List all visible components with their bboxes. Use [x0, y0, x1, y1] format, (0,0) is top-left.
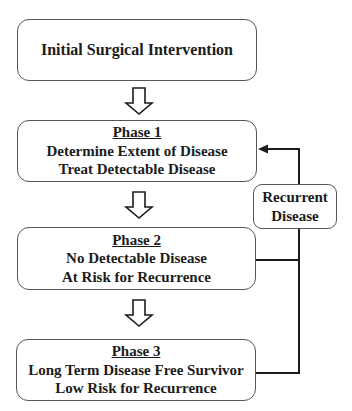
phase-2-title: Phase 2 [112, 231, 161, 250]
phase-2-box: Phase 2 No Detectable Disease At Risk fo… [17, 227, 256, 290]
phase-1-line-2: Treat Detectable Disease [59, 160, 216, 179]
recurrent-label-line-1: Recurrent [262, 188, 328, 207]
phase-3-title: Phase 3 [112, 342, 161, 361]
phase-3-box: Phase 3 Long Term Disease Free Survivor … [16, 339, 256, 401]
feedback-line-phase3 [256, 229, 299, 373]
phase-1-line-1: Determine Extent of Disease [46, 142, 227, 161]
phase-2-line-2: At Risk for Recurrence [62, 268, 211, 287]
recurrent-disease-box: Recurrent Disease [253, 184, 337, 229]
phase-2-line-1: No Detectable Disease [66, 249, 207, 268]
phase-1-title: Phase 1 [113, 123, 162, 142]
down-arrow-2 [126, 192, 152, 218]
recurrent-label-line-2: Disease [271, 207, 319, 226]
feedback-arrowhead [258, 145, 268, 154]
start-label: Initial Surgical Intervention [41, 41, 233, 60]
initial-surgical-intervention-box: Initial Surgical Intervention [17, 19, 257, 81]
down-arrow-3 [126, 300, 152, 326]
phase-1-box: Phase 1 Determine Extent of Disease Trea… [17, 120, 257, 182]
feedback-line-to-phase1 [266, 149, 299, 184]
phase-3-line-1: Long Term Disease Free Survivor [28, 361, 244, 380]
down-arrow-1 [126, 88, 152, 114]
phase-3-line-2: Low Risk for Recurrence [55, 379, 217, 398]
